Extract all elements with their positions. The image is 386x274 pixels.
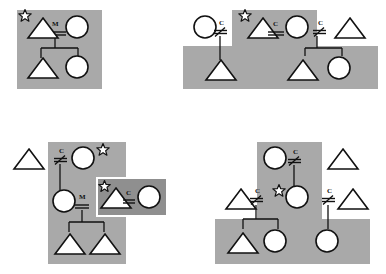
union-label-m-c: M bbox=[79, 194, 86, 201]
descent-line-c1-c2 bbox=[58, 164, 62, 190]
union-line-c-b1-slashed bbox=[214, 28, 232, 38]
star-icon-c1 bbox=[96, 143, 110, 157]
individual-c6-male-triangle[interactable] bbox=[88, 230, 122, 256]
individual-b6-male-triangle[interactable] bbox=[286, 56, 320, 82]
star-icon-a1 bbox=[18, 9, 32, 23]
individual-d2-male-triangle[interactable] bbox=[326, 145, 360, 171]
individual-c1-female-circle[interactable] bbox=[70, 145, 96, 171]
individual-c0-male-triangle[interactable] bbox=[12, 145, 46, 171]
union-label-c-d5: C bbox=[327, 188, 332, 195]
union-label-c-b4: C bbox=[318, 20, 323, 27]
individual-d5-male-triangle[interactable] bbox=[336, 185, 370, 211]
individual-d1-female-circle[interactable] bbox=[262, 145, 288, 171]
individual-d6-male-triangle[interactable] bbox=[226, 229, 260, 255]
union-label-c-c1: C bbox=[59, 148, 64, 155]
individual-a3-male-triangle[interactable] bbox=[26, 54, 60, 80]
union-label-c-b2: C bbox=[273, 21, 278, 28]
individual-b7-female-circle[interactable] bbox=[326, 55, 352, 81]
pedigree-figure: M C bbox=[0, 0, 386, 274]
individual-d4-female-circle[interactable] bbox=[284, 184, 310, 210]
individual-b5-male-triangle[interactable] bbox=[204, 56, 238, 82]
star-icon-b2 bbox=[238, 9, 252, 23]
union-label-c-b1: C bbox=[219, 20, 224, 27]
descent-line-d5-d8 bbox=[326, 205, 330, 229]
union-label-c-d1: C bbox=[293, 149, 298, 156]
union-label-c-c3: C bbox=[126, 190, 131, 197]
individual-a4-female-circle[interactable] bbox=[64, 54, 90, 80]
individual-d7-female-circle[interactable] bbox=[262, 228, 288, 254]
individual-a2-female-circle[interactable] bbox=[64, 14, 90, 40]
star-icon-c3 bbox=[98, 180, 111, 193]
individual-c5-male-triangle[interactable] bbox=[53, 230, 87, 256]
union-label-c-d3: C bbox=[255, 188, 260, 195]
individual-d8-female-circle[interactable] bbox=[314, 228, 340, 254]
union-line-c-d1-slashed bbox=[288, 157, 306, 167]
individual-c4-female-circle[interactable] bbox=[136, 184, 162, 210]
